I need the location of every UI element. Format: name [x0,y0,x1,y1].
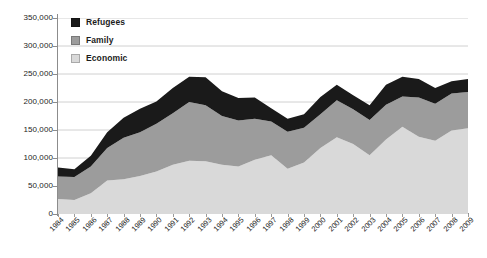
legend-label-economic: Economic [86,54,127,63]
legend-item-refugees: Refugees [71,14,191,30]
legend-swatch-family [71,36,80,45]
legend-item-family: Family [71,32,191,48]
legend-swatch-refugees [71,18,80,27]
legend-label-refugees: Refugees [86,18,125,27]
legend-swatch-economic [71,54,80,63]
legend-label-family: Family [86,36,114,45]
chart-legend: Refugees Family Economic [71,14,191,68]
legend-item-economic: Economic [71,50,191,66]
stacked-area-chart: 350,000300,000250,000200,000150,000100,0… [0,0,487,258]
